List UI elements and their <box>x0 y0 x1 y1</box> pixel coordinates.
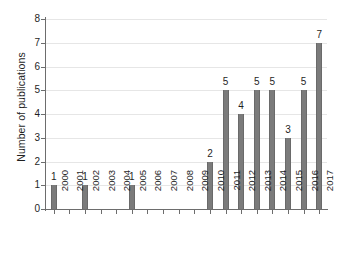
x-tick-label: 2010 <box>215 170 226 216</box>
y-tick-label: 8 <box>10 14 40 24</box>
bar-value-label: 1 <box>117 172 147 182</box>
y-tick-label-wrap: 0 <box>6 204 40 214</box>
y-tick-label-wrap: 2 <box>6 157 40 167</box>
x-tick-label: 2012 <box>246 170 257 216</box>
x-tick-mark <box>85 210 86 214</box>
y-tick-label: 5 <box>10 85 40 95</box>
bar-value-label: 5 <box>289 77 319 87</box>
bar-value-label: 4 <box>226 101 256 111</box>
y-tick-label-wrap: 4 <box>6 109 40 119</box>
x-tick-label: 2014 <box>277 170 288 216</box>
y-tick-label: 4 <box>10 109 40 119</box>
gridline <box>46 19 327 20</box>
y-tick-label: 3 <box>10 133 40 143</box>
y-tick-label: 1 <box>10 180 40 190</box>
bar-value-label: 2 <box>195 149 225 159</box>
bar-chart: Number of publications 012345678 2000200… <box>0 0 342 266</box>
bar-value-label: 5 <box>257 77 287 87</box>
gridline <box>46 114 327 115</box>
y-tick-label-wrap: 5 <box>6 85 40 95</box>
x-tick-label: 2013 <box>262 170 273 216</box>
x-tick-mark <box>163 210 164 214</box>
y-tick-mark <box>41 209 46 210</box>
bar-value-label: 1 <box>39 172 69 182</box>
y-tick-label-wrap: 3 <box>6 133 40 143</box>
gridline <box>46 43 327 44</box>
bar-value-label: 7 <box>304 30 334 40</box>
y-tick-label: 6 <box>10 62 40 72</box>
x-tick-mark <box>210 210 211 214</box>
x-tick-label: 2009 <box>199 170 210 216</box>
x-tick-label: 2003 <box>106 170 117 216</box>
bar-value-label: 3 <box>273 125 303 135</box>
x-tick-label: 2015 <box>293 170 304 216</box>
gridline <box>46 67 327 68</box>
x-tick-mark <box>288 210 289 214</box>
bar-value-label: 1 <box>70 172 100 182</box>
x-tick-label: 2008 <box>184 170 195 216</box>
y-tick-label: 7 <box>10 38 40 48</box>
y-tick-label: 0 <box>10 204 40 214</box>
y-tick-label-wrap: 7 <box>6 38 40 48</box>
x-tick-label: 2007 <box>168 170 179 216</box>
y-tick-label-wrap: 8 <box>6 14 40 24</box>
x-tick-label: 2011 <box>231 170 242 216</box>
gridline <box>46 90 327 91</box>
x-tick-label: 2006 <box>152 170 163 216</box>
bar <box>51 185 57 209</box>
x-tick-label: 2017 <box>324 170 335 216</box>
x-tick-mark <box>132 210 133 214</box>
x-tick-label: 2016 <box>309 170 320 216</box>
y-tick-label-wrap: 6 <box>6 62 40 72</box>
y-tick-label: 2 <box>10 157 40 167</box>
x-tick-mark <box>54 210 55 214</box>
y-tick-label-wrap: 1 <box>6 180 40 190</box>
bar-value-label: 5 <box>211 77 241 87</box>
